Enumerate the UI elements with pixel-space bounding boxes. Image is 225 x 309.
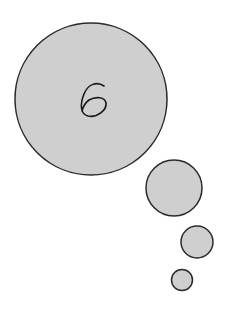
trail-bubble-large [146,160,202,216]
trail-bubble-medium [181,226,213,258]
thought-bubble-diagram: 6 [0,0,225,309]
trail-bubble-small [172,270,193,291]
